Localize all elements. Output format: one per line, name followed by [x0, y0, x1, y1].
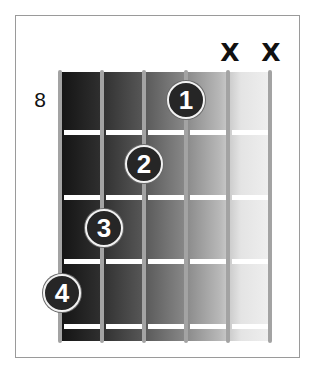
finger-dot-2: 2 — [125, 145, 163, 183]
string-2 — [100, 70, 104, 343]
string-5 — [226, 70, 230, 343]
string-3 — [142, 70, 146, 343]
finger-dot-4: 4 — [43, 274, 81, 312]
muted-string-marker-6: X — [258, 40, 284, 66]
string-6 — [268, 70, 272, 343]
muted-string-marker-5: X — [217, 40, 243, 66]
finger-dot-1: 1 — [167, 81, 205, 119]
start-fret-label: 8 — [28, 88, 52, 112]
fretboard-shading — [62, 72, 270, 341]
finger-dot-3: 3 — [85, 209, 123, 247]
